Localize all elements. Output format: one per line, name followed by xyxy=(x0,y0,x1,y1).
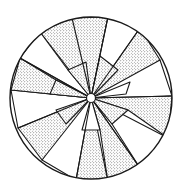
gemstone-facet-drawing xyxy=(0,0,180,194)
culet-circle xyxy=(87,94,96,103)
